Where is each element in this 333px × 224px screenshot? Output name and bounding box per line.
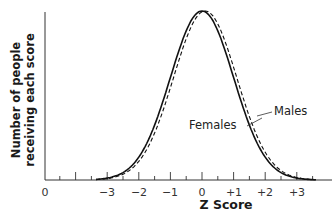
females-curve — [96, 11, 316, 180]
tick-label-minus-1: −1 — [162, 186, 178, 199]
origin-label: 0 — [42, 186, 49, 199]
normal-distribution-chart: 0 −3 −2 −1 0 +1 +2 +3 Females Males — [0, 0, 333, 224]
females-leader-line — [247, 118, 262, 126]
females-label: Females — [189, 118, 237, 132]
tick-label-plus-3: +3 — [289, 186, 305, 199]
x-axis-label: Z Score — [186, 197, 266, 212]
males-label: Males — [274, 104, 307, 118]
tick-label-minus-3: −3 — [99, 186, 115, 199]
males-curve — [96, 11, 316, 180]
tick-label-minus-2: −2 — [131, 186, 147, 199]
males-leader-line — [257, 112, 272, 116]
